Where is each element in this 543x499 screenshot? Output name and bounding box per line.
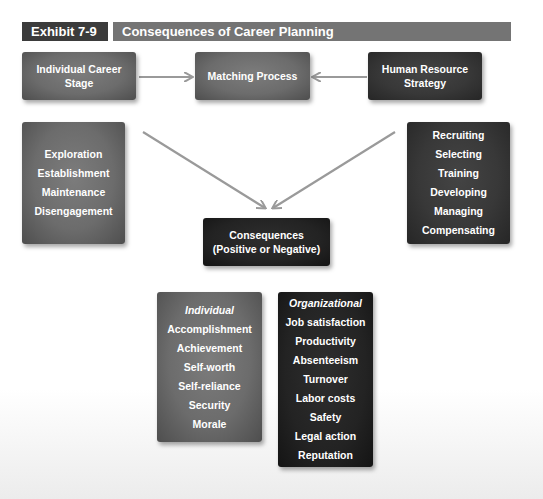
list-item: Absenteeism	[293, 351, 358, 370]
individual-career-stage-box: Individual Career Stage	[22, 52, 136, 100]
list-item: Morale	[193, 415, 227, 434]
list-item: Productivity	[295, 332, 356, 351]
box-label-line2: Strategy	[404, 76, 446, 90]
box-label-line1: Human Resource	[382, 62, 468, 76]
list-item: Maintenance	[42, 183, 106, 202]
list-item: Accomplishment	[167, 320, 252, 339]
box-label-line1: Individual Career	[36, 62, 121, 76]
consequences-line2: (Positive or Negative)	[213, 242, 320, 256]
list-item: Achievement	[177, 339, 242, 358]
list-item: Selecting	[435, 145, 482, 164]
list-item: Safety	[310, 408, 342, 427]
human-resource-strategy-box: Human Resource Strategy	[368, 52, 482, 100]
list-item: Developing	[430, 183, 487, 202]
list-item: Reputation	[298, 446, 353, 465]
consequences-box: Consequences (Positive or Negative)	[203, 218, 330, 266]
box-label: Matching Process	[208, 69, 298, 83]
list-item: Recruiting	[433, 126, 485, 145]
list-item: Self-worth	[184, 358, 235, 377]
hr-activities-list: Recruiting Selecting Training Developing…	[407, 122, 510, 244]
list-item: Disengagement	[34, 202, 112, 221]
box-label-line2: Stage	[65, 76, 94, 90]
list-item: Exploration	[45, 145, 103, 164]
organizational-consequences-list: Organizational Job satisfaction Producti…	[278, 292, 373, 467]
list-item: Training	[438, 164, 479, 183]
career-stages-list: Exploration Establishment Maintenance Di…	[22, 122, 125, 244]
arrow-right-to-consequences	[273, 132, 395, 208]
list-item: Turnover	[303, 370, 348, 389]
matching-process-box: Matching Process	[195, 52, 310, 100]
list-item: Legal action	[295, 427, 356, 446]
list-item: Establishment	[38, 164, 110, 183]
individual-heading: Individual	[185, 301, 234, 320]
individual-consequences-list: Individual Accomplishment Achievement Se…	[157, 292, 262, 442]
list-item: Job satisfaction	[286, 313, 366, 332]
organizational-heading: Organizational	[289, 294, 362, 313]
list-item: Security	[189, 396, 230, 415]
list-item: Compensating	[422, 221, 495, 240]
list-item: Self-reliance	[178, 377, 240, 396]
consequences-line1: Consequences	[229, 228, 304, 242]
list-item: Labor costs	[296, 389, 356, 408]
arrow-left-to-consequences	[143, 132, 265, 208]
list-item: Managing	[434, 202, 483, 221]
